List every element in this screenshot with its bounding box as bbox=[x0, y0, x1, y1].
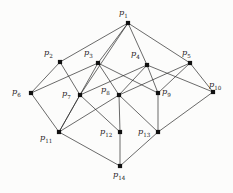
node-label-sub-p12: 12 bbox=[105, 132, 112, 138]
node-label-p13: p13 bbox=[138, 127, 150, 135]
node-p6[interactable] bbox=[29, 91, 33, 95]
node-label-sub-p7: 7 bbox=[67, 94, 71, 100]
node-label-p6: p6 bbox=[12, 87, 21, 95]
node-label-sub-p11: 11 bbox=[45, 138, 52, 144]
hasse-diagram-canvas: p1p2p3p4p5p6p7p8p9p10p11p12p13p14 bbox=[0, 0, 233, 193]
node-label-sub-p8: 8 bbox=[106, 90, 110, 96]
node-label-sub-p10: 10 bbox=[214, 85, 221, 91]
edge-p10-p13 bbox=[158, 92, 213, 132]
node-label-p7: p7 bbox=[62, 89, 71, 97]
edge-p13-p14 bbox=[120, 132, 158, 166]
node-p7[interactable] bbox=[78, 93, 82, 97]
node-p3[interactable] bbox=[96, 61, 100, 65]
edge-p7-p11 bbox=[59, 95, 80, 132]
edge-p2-p6 bbox=[31, 62, 60, 93]
edge-p1-p2 bbox=[60, 23, 128, 62]
edge-p4-p8 bbox=[119, 65, 147, 95]
node-p9[interactable] bbox=[156, 91, 160, 95]
node-label-p1: p1 bbox=[119, 8, 128, 16]
node-label-sub-p3: 3 bbox=[89, 53, 93, 59]
node-label-sub-p2: 2 bbox=[49, 53, 53, 59]
edge-p1-p3 bbox=[98, 23, 128, 63]
node-group bbox=[29, 21, 215, 168]
node-p4[interactable] bbox=[145, 63, 149, 67]
node-p13[interactable] bbox=[156, 130, 160, 134]
edge-group bbox=[31, 23, 213, 166]
node-p11[interactable] bbox=[57, 130, 61, 134]
node-label-p10: p10 bbox=[209, 80, 221, 88]
node-label-p12: p12 bbox=[100, 127, 112, 135]
node-label-sub-p5: 5 bbox=[187, 53, 191, 59]
node-label-sub-p4: 4 bbox=[136, 54, 140, 60]
node-p2[interactable] bbox=[58, 60, 62, 64]
node-label-sub-p6: 6 bbox=[17, 92, 21, 98]
node-p5[interactable] bbox=[188, 61, 192, 65]
hasse-diagram-svg bbox=[0, 0, 233, 193]
node-label-p4: p4 bbox=[131, 49, 140, 57]
edge-p4-p10 bbox=[147, 65, 213, 92]
node-label-p8: p8 bbox=[101, 85, 110, 93]
node-p8[interactable] bbox=[117, 93, 121, 97]
node-label-p2: p2 bbox=[44, 48, 53, 56]
node-p12[interactable] bbox=[118, 130, 122, 134]
node-label-p11: p11 bbox=[40, 133, 52, 141]
node-label-p3: p3 bbox=[84, 48, 93, 56]
node-label-p9: p9 bbox=[162, 87, 171, 95]
node-label-sub-p14: 14 bbox=[118, 175, 125, 181]
node-label-p14: p14 bbox=[113, 170, 125, 178]
node-p14[interactable] bbox=[118, 164, 122, 168]
node-label-sub-p1: 1 bbox=[124, 13, 128, 19]
node-label-sub-p9: 9 bbox=[167, 92, 171, 98]
node-label-p5: p5 bbox=[182, 48, 191, 56]
edge-p6-p11 bbox=[31, 93, 59, 132]
node-p1[interactable] bbox=[126, 21, 130, 25]
edge-p8-p12 bbox=[119, 95, 120, 132]
node-label-sub-p13: 13 bbox=[143, 132, 150, 138]
